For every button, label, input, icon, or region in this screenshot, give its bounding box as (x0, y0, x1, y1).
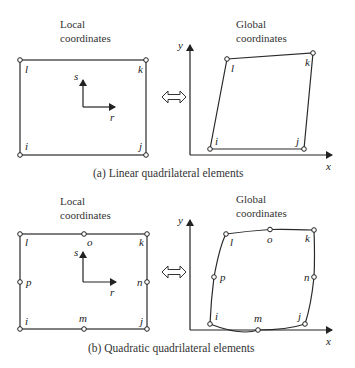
node-o-label: o (87, 236, 93, 248)
node-l-marker (224, 232, 229, 237)
node-n-marker (145, 280, 150, 285)
node-i-label: i (25, 140, 28, 152)
double-arrow-icon (162, 266, 186, 278)
node-j-marker (303, 322, 308, 327)
node-l-marker (18, 58, 23, 63)
node-l-marker (225, 57, 230, 62)
node-j-label: j (296, 310, 301, 322)
node-i-marker (208, 147, 213, 152)
r-axis-label: r (110, 111, 115, 123)
node-k-label: k (139, 236, 145, 248)
node-p-marker (18, 280, 23, 285)
node-j-label: j (294, 135, 299, 147)
global-linear-element: l k i j (208, 51, 316, 152)
node-j-marker (302, 147, 307, 152)
r-axis-label: r (110, 286, 115, 298)
local-title-line2: coordinates (60, 32, 111, 44)
node-i-marker (18, 153, 23, 158)
global-title-line2: coordinates (236, 207, 287, 219)
panel-b: Local coordinates l o k p n i m j s r (18, 193, 332, 355)
node-p-label: p (219, 271, 226, 283)
y-axis-label: y (177, 214, 183, 226)
node-k-marker (145, 232, 150, 237)
local-title-line1: Local (60, 18, 85, 30)
quadrilateral-elements-figure: Local coordinates l k i j s r y (0, 0, 355, 368)
node-m-marker (82, 327, 87, 332)
node-o-marker (82, 232, 87, 237)
global-title-line2: coordinates (236, 32, 287, 44)
s-axis-label: s (74, 246, 78, 258)
node-j-marker (144, 153, 149, 158)
node-i-label: i (215, 310, 218, 322)
node-n-marker (312, 275, 317, 280)
node-n-label: n (137, 276, 143, 288)
node-l-label: l (230, 236, 233, 248)
node-o-label: o (267, 233, 273, 245)
node-n-label: n (304, 271, 310, 283)
global-title-line1: Global (236, 18, 266, 30)
panel-a: Local coordinates l k i j s r y (18, 18, 332, 180)
node-j-marker (145, 327, 150, 332)
node-k-label: k (305, 232, 311, 244)
local-linear-element: l k i j s r (18, 58, 149, 158)
node-i-marker (208, 322, 213, 327)
node-l-marker (18, 232, 23, 237)
local-title-line1: Local (60, 195, 85, 207)
x-axis-label: x (325, 160, 331, 172)
node-k-marker (144, 58, 149, 63)
x-axis-label: x (325, 335, 331, 347)
node-k-label: k (305, 56, 311, 68)
caption-b: (b) Quadratic quadrilateral elements (88, 342, 255, 355)
node-j-label: j (138, 315, 143, 327)
node-i-label: i (215, 135, 218, 147)
node-l-label: l (25, 63, 28, 75)
node-j-label: j (137, 140, 142, 152)
node-k-marker (312, 228, 317, 233)
node-i-label: i (25, 315, 28, 327)
node-l-label: l (25, 236, 28, 248)
node-m-marker (256, 328, 261, 333)
global-quadratic-element: l o k p n i m j (208, 227, 317, 332)
node-k-label: k (138, 63, 144, 75)
node-m-label: m (79, 312, 87, 324)
local-title-line2: coordinates (60, 209, 111, 221)
node-p-label: p (25, 276, 32, 288)
node-m-label: m (254, 312, 262, 324)
node-p-marker (212, 275, 217, 280)
y-axis-label: y (177, 39, 183, 51)
node-i-marker (18, 327, 23, 332)
node-o-marker (268, 227, 273, 232)
double-arrow-icon (162, 91, 186, 103)
local-quadratic-element: l o k p n i m j s r (18, 232, 150, 332)
node-l-label: l (231, 62, 234, 74)
caption-a: (a) Linear quadrilateral elements (93, 167, 244, 180)
node-k-marker (311, 51, 316, 56)
global-title-line1: Global (236, 193, 266, 205)
s-axis-label: s (74, 70, 78, 82)
